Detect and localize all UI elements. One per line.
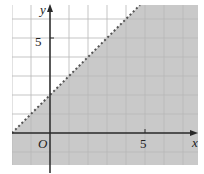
x-tick-label: 5 xyxy=(140,136,147,151)
y-tick-label: 5 xyxy=(35,34,42,49)
origin-label: O xyxy=(38,136,48,151)
y-axis-label: y xyxy=(38,2,46,17)
plot-area: x y O 5 5 xyxy=(12,2,198,173)
x-axis-label: x xyxy=(191,135,198,150)
inequality-graph: x y O 5 5 xyxy=(0,0,204,174)
